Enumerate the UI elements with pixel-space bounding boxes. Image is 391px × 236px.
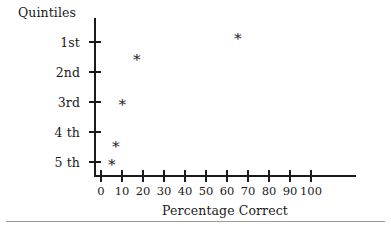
y-axis-tick-label: 4 th bbox=[8, 126, 80, 139]
bottom-divider bbox=[6, 221, 385, 222]
x-axis-tick-label: 40 bbox=[178, 185, 193, 198]
x-axis-tick-label: 70 bbox=[241, 185, 256, 198]
y-axis-tick-label-group: 1st2nd3rd4 th5 th bbox=[8, 18, 80, 176]
y-axis-tick-label: 5 th bbox=[8, 156, 80, 169]
y-axis-tick-label: 2nd bbox=[8, 66, 80, 79]
x-axis-line bbox=[94, 175, 356, 177]
x-axis-tick bbox=[205, 170, 207, 182]
y-axis-tick-label: 3rd bbox=[8, 96, 80, 109]
x-axis-tick-label: 100 bbox=[300, 185, 322, 198]
y-axis-tick bbox=[89, 41, 101, 43]
y-axis-tick-label: 1st bbox=[8, 36, 80, 49]
x-axis-tick-label: 80 bbox=[262, 185, 277, 198]
x-axis-tick bbox=[121, 170, 123, 182]
x-axis-title: Percentage Correct bbox=[94, 203, 356, 218]
x-axis-tick bbox=[247, 170, 249, 182]
y-axis-tick bbox=[89, 71, 101, 73]
data-point: ∗ bbox=[132, 50, 142, 65]
x-axis-tick-label: 50 bbox=[199, 185, 214, 198]
scatter-plot-figure: Quintiles 1st2nd3rd4 th5 th 010203040506… bbox=[0, 0, 391, 236]
y-axis-tick bbox=[89, 101, 101, 103]
x-axis-tick bbox=[289, 170, 291, 182]
x-axis-tick bbox=[268, 170, 270, 182]
x-axis-tick-label: 60 bbox=[220, 185, 235, 198]
x-axis-tick-label: 20 bbox=[136, 185, 151, 198]
y-axis-tick bbox=[89, 131, 101, 133]
x-axis-tick-label: 0 bbox=[97, 185, 104, 198]
x-axis-tick-label: 90 bbox=[283, 185, 298, 198]
x-axis-tick bbox=[184, 170, 186, 182]
data-point: ∗ bbox=[111, 137, 121, 152]
x-axis-tick-label: 30 bbox=[157, 185, 172, 198]
data-point: ∗ bbox=[117, 95, 127, 110]
x-axis-tick-label: 10 bbox=[115, 185, 130, 198]
x-axis-tick bbox=[142, 170, 144, 182]
data-point: ∗ bbox=[232, 29, 242, 44]
x-axis-tick bbox=[100, 170, 102, 182]
x-axis-tick bbox=[310, 170, 312, 182]
x-axis-tick bbox=[163, 170, 165, 182]
data-point: ∗ bbox=[106, 155, 116, 170]
x-axis-tick bbox=[226, 170, 228, 182]
y-axis-tick bbox=[89, 161, 101, 163]
